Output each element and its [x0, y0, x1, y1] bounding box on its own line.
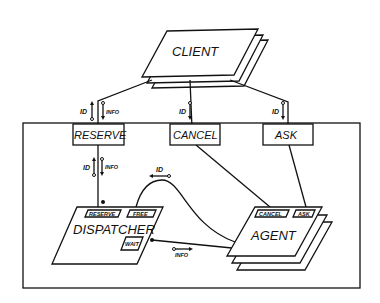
reserve-info-label: INFO [106, 109, 120, 115]
cancel-port-label: CANCEL [259, 211, 283, 217]
arrow-down-icon [281, 116, 285, 120]
wait-info-label: INFO [175, 252, 189, 258]
reserve-dispatcher-flows: ID INFO [83, 157, 119, 177]
reserve-id-label: ID [80, 108, 87, 115]
arrow-down-icon [101, 116, 105, 120]
couple-origin-icon [91, 118, 94, 121]
couple-origin-icon [173, 248, 176, 251]
client-label: CLIENT [172, 44, 219, 59]
couple-origin-icon [282, 102, 285, 105]
reserve-port-label: RESERVE [89, 211, 116, 217]
dispatch-id-label: ID [83, 164, 90, 171]
client-reserve-line [98, 80, 152, 128]
dispatcher-reserve-port[interactable]: RESERVE [85, 210, 121, 217]
connection-dot [101, 200, 105, 204]
cancel-id-label: ID [179, 108, 186, 115]
cancel-flows: ID [179, 102, 192, 121]
arrow-up-icon [92, 157, 96, 161]
reserve-flows: ID INFO [80, 101, 120, 121]
dispatcher-label: DISPATCHER [73, 222, 155, 237]
ask-agent-line [289, 145, 306, 207]
arrow-down-icon [100, 172, 104, 176]
cancel-label: CANCEL [173, 129, 218, 141]
client-node[interactable]: CLIENT [142, 29, 268, 88]
couple-origin-icon [168, 175, 171, 178]
agent-cancel-port[interactable]: CANCEL [255, 210, 289, 217]
couple-origin-icon [93, 174, 96, 177]
free-id-label: ID [156, 166, 163, 173]
wait-agent-line [152, 240, 232, 248]
ask-label: ASK [274, 129, 298, 141]
dispatcher-node[interactable]: RESERVE FREE DISPATCHER WAIT [52, 207, 163, 264]
dispatch-info-label: INFO [105, 164, 119, 170]
ask-port-label: ASK [297, 211, 311, 217]
reserve-interface[interactable]: RESERVE [73, 124, 127, 145]
agent-node[interactable]: CANCEL ASK AGENT [227, 207, 332, 270]
arrow-up-icon [90, 101, 94, 105]
ask-id-label: ID [272, 108, 279, 115]
couple-origin-icon [101, 158, 104, 161]
wait-port-label: WAIT [125, 241, 139, 247]
arrow-right-icon [189, 247, 193, 251]
dispatcher-free-port[interactable]: FREE [127, 210, 156, 217]
ask-flows: ID [272, 102, 285, 121]
wait-agent-flow: INFO [173, 247, 194, 258]
arrow-left-icon [149, 174, 153, 178]
agent-label: AGENT [250, 228, 297, 243]
cancel-interface[interactable]: CANCEL [170, 124, 220, 145]
free-port-label: FREE [133, 211, 148, 217]
diagram-canvas: CLIENT ID INFO ID ID RESERVE CANCEL [0, 0, 380, 303]
free-agent-flow: ID [149, 166, 171, 178]
connection-dot [150, 238, 154, 242]
couple-origin-icon [102, 102, 105, 105]
ask-interface[interactable]: ASK [263, 124, 313, 145]
client-ask-line [230, 80, 288, 128]
agent-ask-port[interactable]: ASK [293, 210, 315, 217]
couple-origin-icon [189, 102, 192, 105]
reserve-label: RESERVE [74, 129, 127, 141]
cancel-agent-line [196, 145, 270, 207]
